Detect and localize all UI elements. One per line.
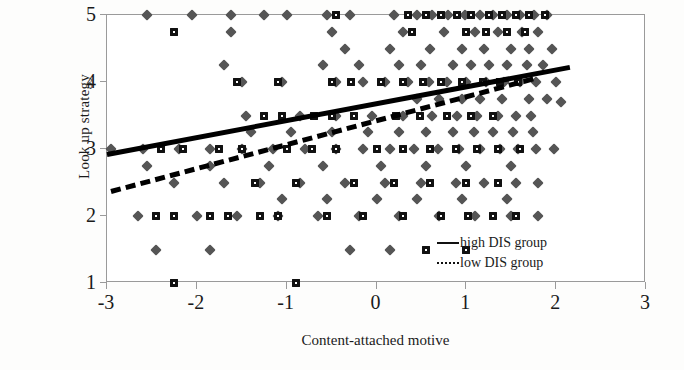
- x-tick-label: -1: [266, 292, 306, 312]
- scatter-point: [328, 78, 336, 86]
- scatter-point: [432, 143, 443, 154]
- scatter-point: [170, 28, 178, 36]
- scatter-point: [524, 93, 535, 104]
- scatter-point: [353, 60, 364, 71]
- scatter-point: [152, 212, 160, 220]
- scatter-point: [225, 9, 236, 20]
- scatter-point: [272, 210, 283, 221]
- scatter-point: [527, 127, 538, 138]
- x-tick-mark: [376, 282, 377, 289]
- x-tick-mark: [465, 282, 466, 289]
- scatter-point: [344, 244, 355, 255]
- scatter-point: [384, 143, 395, 154]
- scatter-point: [541, 11, 549, 19]
- scatter-point: [525, 110, 536, 121]
- scatter-point: [465, 60, 476, 71]
- scatter-point: [399, 212, 407, 220]
- chart-legend: high DIS grouplow DIS group: [437, 233, 547, 273]
- scatter-point: [254, 177, 265, 188]
- scatter-point: [408, 28, 416, 36]
- scatter-point: [330, 143, 341, 154]
- scatter-point: [471, 110, 482, 121]
- scatter-point: [260, 112, 268, 120]
- scatter-point: [384, 43, 395, 54]
- scatter-point: [371, 194, 382, 205]
- y-tick-label: 4: [70, 71, 96, 91]
- scatter-point: [494, 179, 502, 187]
- scatter-point: [555, 96, 566, 107]
- scatter-point: [483, 60, 494, 71]
- scatter-point: [456, 43, 467, 54]
- scatter-point: [506, 43, 517, 54]
- scatter-point: [422, 246, 430, 254]
- scatter-point: [515, 9, 526, 20]
- scatter-point: [462, 179, 470, 187]
- y-tick-label: 5: [70, 4, 96, 24]
- scatter-point: [456, 194, 467, 205]
- scatter-point: [495, 143, 506, 154]
- scatter-point: [218, 177, 229, 188]
- x-tick-label: 3: [625, 292, 665, 312]
- scatter-point: [550, 76, 561, 87]
- scatter-point: [233, 78, 241, 86]
- y-tick-mark: [100, 148, 106, 149]
- scatter-point: [459, 9, 470, 20]
- scatter-point: [389, 9, 400, 20]
- scatter-point: [330, 76, 341, 87]
- legend-label: low DIS group: [460, 253, 543, 273]
- scatter-point: [434, 210, 445, 221]
- scatter-point: [317, 60, 328, 71]
- scatter-point: [251, 179, 259, 187]
- scatter-point: [323, 212, 331, 220]
- scatter-point: [411, 9, 422, 20]
- scatter-point: [398, 26, 409, 37]
- scatter-point: [506, 160, 517, 171]
- chart-root: Look up strategy high DIS grouplow DIS g…: [0, 0, 684, 370]
- scatter-point: [470, 26, 481, 37]
- scatter-point: [464, 212, 472, 220]
- scatter-point: [362, 127, 373, 138]
- scatter-point: [489, 212, 497, 220]
- scatter-point: [447, 127, 458, 138]
- x-axis-label: Content-attached motive: [106, 332, 645, 349]
- scatter-point: [241, 110, 252, 121]
- scatter-point: [411, 194, 422, 205]
- scatter-point: [473, 145, 481, 153]
- scatter-point: [375, 160, 386, 171]
- scatter-point: [215, 145, 223, 153]
- scatter-point: [506, 210, 517, 221]
- x-tick-mark: [196, 282, 197, 289]
- scatter-point: [416, 60, 427, 71]
- scatter-point: [521, 28, 529, 36]
- scatter-point: [224, 212, 232, 220]
- scatter-point: [402, 76, 413, 87]
- scatter-point: [531, 143, 542, 154]
- scatter-point: [384, 244, 395, 255]
- scatter-point: [533, 26, 544, 37]
- scatter-point: [187, 9, 198, 20]
- scatter-point: [236, 76, 247, 87]
- scatter-point: [292, 179, 300, 187]
- scatter-point: [542, 93, 553, 104]
- scatter-point: [512, 11, 520, 19]
- scatter-point: [443, 9, 454, 20]
- scatter-point: [399, 78, 407, 86]
- scatter-point: [285, 127, 296, 138]
- scatter-point: [494, 145, 502, 153]
- scatter-point: [359, 212, 367, 220]
- x-tick-label: 2: [535, 292, 575, 312]
- scatter-point: [426, 179, 434, 187]
- scatter-point: [281, 9, 292, 20]
- scatter-point: [142, 160, 153, 171]
- scatter-point: [427, 9, 438, 20]
- scatter-point: [344, 9, 355, 20]
- scatter-point: [488, 9, 499, 20]
- plot-area: high DIS grouplow DIS group: [106, 14, 645, 282]
- x-tick-mark: [555, 282, 556, 289]
- scatter-point: [294, 177, 305, 188]
- scatter-point: [533, 210, 544, 221]
- x-tick-mark: [286, 282, 287, 289]
- scatter-point: [409, 143, 420, 154]
- scatter-point: [238, 145, 246, 153]
- scatter-point: [516, 145, 524, 153]
